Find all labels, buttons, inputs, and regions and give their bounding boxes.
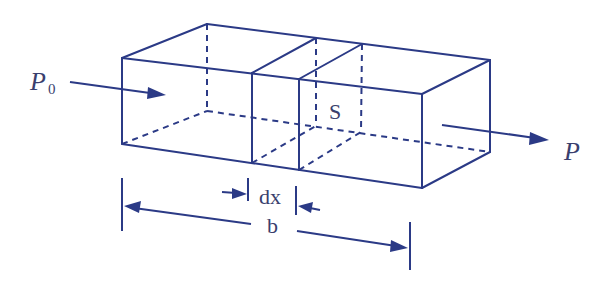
arrowhead-icon <box>298 202 313 213</box>
edge-top-front <box>122 58 422 94</box>
arrowhead-icon <box>390 240 408 252</box>
input-power-subscript: 0 <box>48 81 56 97</box>
length-label: b <box>267 213 278 238</box>
slice-thickness-label: dx <box>259 184 281 209</box>
slice-area-label: S <box>329 99 341 124</box>
arrowhead-icon <box>529 132 549 145</box>
hidden-edges <box>122 24 490 170</box>
hidden-edge-back-bottom-left <box>122 111 207 144</box>
hidden-edge-slice1-bottom <box>252 126 316 163</box>
edge-top-back <box>207 24 490 60</box>
hidden-edge-slice2-back-vertical <box>361 44 362 132</box>
edge-right-bottom <box>422 152 490 188</box>
edge-slice1-top <box>252 38 316 73</box>
edge-top-right <box>422 60 490 94</box>
edge-slice2-top <box>299 44 362 79</box>
diagram-canvas: P 0 P S dx b <box>0 0 605 282</box>
input-power-arrow <box>70 82 166 99</box>
output-power-arrow <box>442 125 549 145</box>
hidden-edge-back-bottom <box>207 111 490 152</box>
arrowhead-icon <box>232 188 247 199</box>
arrowhead-icon <box>124 201 141 213</box>
input-power-label: P <box>29 67 46 96</box>
visible-edges <box>122 24 490 188</box>
edge-top-left <box>122 24 207 58</box>
output-power-label: P <box>563 137 580 166</box>
hidden-edge-slice2-bottom <box>299 132 361 170</box>
arrowhead-icon <box>147 87 166 99</box>
